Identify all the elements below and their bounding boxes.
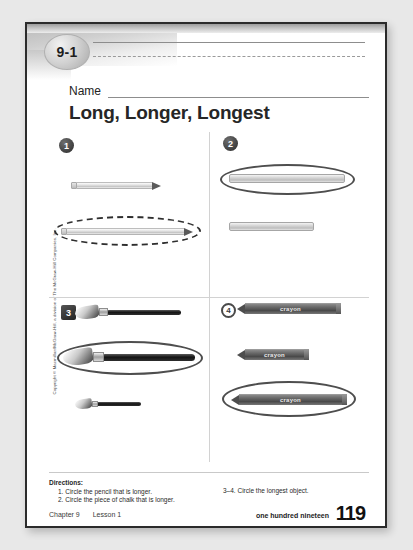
- pencil-body: [77, 182, 152, 189]
- directions-block: Directions: 1. Circle the pencil that is…: [49, 479, 229, 503]
- answer-circle-paintbrush: [57, 341, 203, 375]
- direction-item-2: 2. Circle the piece of chalk that is lon…: [49, 496, 229, 503]
- lesson-badge: 9-1: [44, 34, 90, 70]
- brush-handle: [98, 402, 141, 406]
- directions-heading: Directions:: [49, 479, 229, 486]
- direction-item-1: 1. Circle the pencil that is longer.: [49, 488, 229, 495]
- footer-divider: [49, 472, 369, 473]
- worksheet-page: 9-1 Name Long, Longer, Longest Copyright…: [25, 22, 387, 528]
- crayon-body: crayon: [245, 303, 336, 314]
- direction-item-3-4: 3–4. Circle the longest object.: [223, 487, 373, 494]
- crayon-end: [304, 349, 309, 360]
- exercise-number-4: 4: [221, 303, 236, 318]
- name-input-line[interactable]: [108, 84, 369, 98]
- exercise-3: 3: [49, 297, 209, 462]
- answer-circle-chalk: [220, 164, 355, 195]
- page-number-words: one hundred nineteen: [256, 512, 329, 519]
- brush-bristles-icon: [74, 304, 100, 320]
- exercise-4: 4 crayon crayon crayon: [209, 297, 369, 462]
- pencil-tip-icon: [152, 182, 161, 190]
- exercise-1: 1: [49, 132, 209, 297]
- exercise-number-3: 3: [61, 305, 76, 320]
- crayon-end: [336, 303, 341, 314]
- crayon-label: crayon: [264, 352, 285, 358]
- exercise-number-2: 2: [223, 136, 238, 151]
- crayon-body: crayon: [245, 349, 304, 360]
- brush-ferrule: [99, 308, 108, 316]
- page-title: Long, Longer, Longest: [69, 102, 270, 124]
- paintbrush-medium[interactable]: [75, 305, 181, 319]
- chalk-short[interactable]: [229, 222, 314, 231]
- name-label: Name: [69, 84, 101, 98]
- name-field-row: Name: [69, 84, 369, 98]
- exercise-grid: 1 2 3: [49, 132, 369, 462]
- crayon-tip-icon: [237, 304, 245, 314]
- pencil-short[interactable]: [71, 182, 161, 189]
- crayon-label: crayon: [280, 306, 301, 312]
- crayon-tip-icon: [237, 350, 245, 360]
- top-bar-decoration: [27, 24, 385, 33]
- handwriting-rules: [93, 42, 365, 57]
- brush-bristles-icon: [74, 398, 92, 410]
- answer-circle-crayon: [222, 381, 356, 417]
- crayon-medium[interactable]: crayon: [237, 303, 341, 314]
- page-number: 119: [336, 502, 365, 525]
- exercise-2: 2: [209, 132, 369, 297]
- footer-lesson: Lesson 1: [93, 511, 121, 518]
- paintbrush-short[interactable]: [75, 397, 141, 411]
- footer-chapter-lesson: Chapter 9 Lesson 1: [49, 511, 132, 518]
- rule-line-top: [93, 42, 365, 43]
- rule-line-dashed: [93, 56, 365, 57]
- exercise-number-1: 1: [59, 138, 74, 153]
- crayon-short[interactable]: crayon: [237, 349, 309, 360]
- answer-circle-pencil: [54, 216, 201, 246]
- brush-handle: [108, 310, 181, 315]
- footer-chapter: Chapter 9: [49, 511, 80, 518]
